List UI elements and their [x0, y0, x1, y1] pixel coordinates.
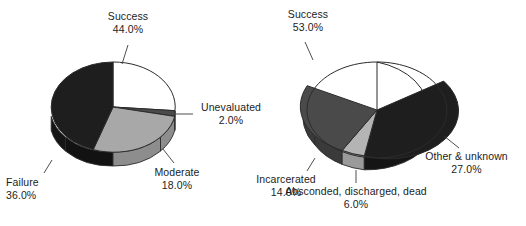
label-name: Incarcerated [247, 173, 325, 186]
pie-chart-figure: Success 44.0% Unevaluated 2.0% Moderate … [0, 0, 526, 226]
leader-line-other [444, 136, 459, 148]
leader-line-failure [44, 160, 52, 173]
label-name: Moderate [145, 166, 209, 179]
label-value: 14.0% [247, 186, 325, 199]
label-value: 6.0% [285, 198, 427, 211]
leader-line-moderate [163, 149, 174, 163]
label-name: Failure [6, 176, 70, 189]
label-name: Other & unknown [414, 150, 519, 163]
pie-right-label-other-unknown: Other & unknown 27.0% [414, 150, 519, 175]
leader-line-success [305, 42, 313, 60]
pie-left-label-success: Success 44.0% [86, 10, 170, 35]
label-name: Success [271, 8, 345, 21]
label-value: 2.0% [194, 114, 268, 127]
pie-chart-right: Success 53.0% Other & unknown 27.0% Absc… [263, 0, 526, 226]
pie-right-label-incarcerated: Incarcerated 14.0% [247, 173, 325, 198]
pie-left-label-unevaluated: Unevaluated 2.0% [194, 101, 268, 126]
pie-left-label-moderate: Moderate 18.0% [145, 166, 209, 191]
label-value: 44.0% [86, 23, 170, 36]
leader-line-success [122, 45, 128, 64]
pie-chart-left: Success 44.0% Unevaluated 2.0% Moderate … [0, 0, 263, 226]
label-name: Success [86, 10, 170, 23]
label-value: 27.0% [414, 163, 519, 176]
label-name: Unevaluated [194, 101, 268, 114]
label-value: 36.0% [6, 189, 70, 202]
label-value: 53.0% [271, 21, 345, 34]
pie-right-label-success: Success 53.0% [271, 8, 345, 33]
leader-line-incarcerated [307, 158, 315, 171]
label-value: 18.0% [145, 179, 209, 192]
pie-left-label-failure: Failure 36.0% [6, 176, 70, 201]
slice-top-success [113, 62, 175, 111]
